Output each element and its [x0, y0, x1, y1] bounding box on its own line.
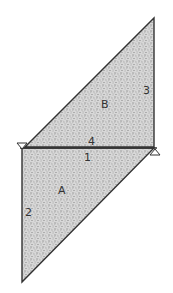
- parallelogram-diagram: B A 3 4 1 2: [0, 0, 173, 293]
- region-label-b: B: [101, 98, 109, 111]
- edge-label-3: 3: [143, 84, 150, 97]
- region-a: [22, 148, 154, 282]
- region-b: [25, 18, 154, 147]
- edge-label-1: 1: [84, 151, 91, 164]
- edge-label-4: 4: [88, 135, 95, 148]
- region-label-a: A: [58, 184, 66, 197]
- edge-label-2: 2: [25, 206, 32, 219]
